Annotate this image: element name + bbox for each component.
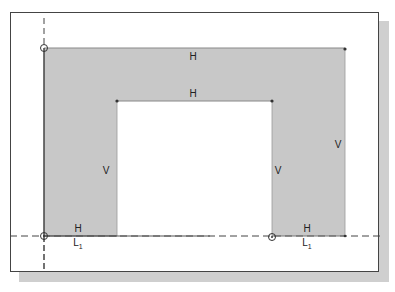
horizontal-constraint-top-outer: H <box>189 52 196 62</box>
length-subscript: 1 <box>79 243 83 250</box>
length-subscript: 1 <box>308 243 312 250</box>
vertical-constraint-left-inner: V <box>103 166 110 176</box>
equal-length-label-right: L1 <box>302 238 311 250</box>
inner-right-corner-point[interactable] <box>270 99 273 102</box>
profile-shape[interactable] <box>44 48 345 236</box>
vertical-constraint-right-inner: V <box>275 166 282 176</box>
inner-left-corner-point[interactable] <box>115 99 118 102</box>
horizontal-constraint-top-inner: H <box>189 89 196 99</box>
vertical-constraint-right-outer: V <box>335 140 342 150</box>
outer-corner-point[interactable] <box>343 47 346 50</box>
horizontal-constraint-bottom-right: H <box>303 224 310 234</box>
horizontal-constraint-bottom-left: H <box>74 224 81 234</box>
equal-length-label-left: L1 <box>73 238 82 250</box>
